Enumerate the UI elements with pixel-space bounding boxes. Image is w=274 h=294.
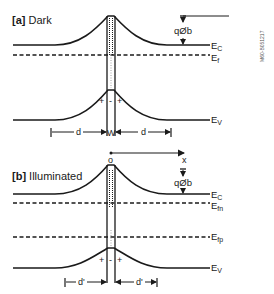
origin-label: o [108, 155, 113, 165]
efn-label: Efn [211, 200, 223, 212]
band-diagram: [a] Dark + - + qØb EC Ef EV [0, 0, 274, 294]
d-left-label: d [76, 127, 81, 137]
ec-label: EC [211, 40, 222, 52]
panel-a: [a] Dark + - + qØb EC Ef EV [12, 14, 229, 138]
charge-minus: - [109, 96, 112, 106]
ev-label-b: EV [211, 262, 222, 274]
panel-b: [b] Illuminated + - + qØb EC Efn Efp EV … [12, 165, 223, 287]
x-axis-label: x [182, 155, 187, 165]
charge-plus-left-b: + [99, 255, 104, 265]
d-prime-right-label: d' [136, 277, 143, 287]
barrier-height-label-b: qØb [174, 177, 192, 188]
charge-plus-right-b: + [117, 255, 122, 265]
w-label: W [107, 128, 116, 138]
barrier-layer-b [107, 165, 115, 283]
ev-label: EV [211, 114, 222, 126]
position-axis: o x [108, 152, 187, 166]
depletion-width-dimension: d W d [51, 127, 171, 138]
depletion-width-dimension-b: d' d' [65, 277, 157, 287]
panel-a-title: [a] Dark [12, 14, 52, 26]
d-right-label: d [141, 127, 146, 137]
barrier-layer [107, 16, 115, 136]
barrier-height-label: qØb [174, 25, 192, 36]
charge-plus-left: + [99, 96, 104, 106]
panel-b-title: [b] Illuminated [12, 170, 82, 182]
ef-label: Ef [211, 52, 219, 64]
d-prime-left-label: d' [78, 277, 85, 287]
charge-plus-right: + [117, 96, 122, 106]
charge-minus-b: - [109, 255, 112, 265]
efp-label: Efp [211, 231, 223, 244]
figure-code: M60-B051217 [259, 30, 265, 62]
